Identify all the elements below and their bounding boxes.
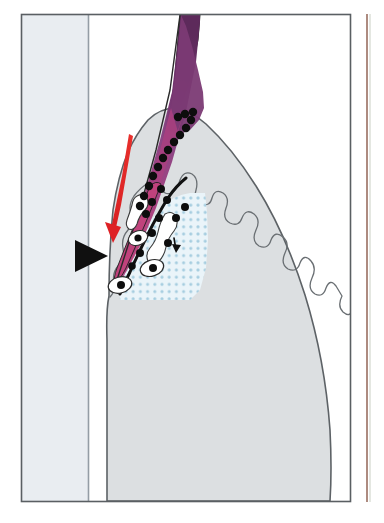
- figure-stage: [0, 0, 384, 523]
- adjacent-panel-sliver: [366, 14, 384, 502]
- histology-figure: [0, 0, 384, 523]
